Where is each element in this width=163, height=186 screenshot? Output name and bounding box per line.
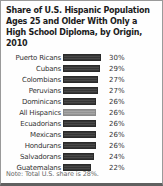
bar-track <box>63 131 105 138</box>
bar-row: Mexicans26% <box>1 129 162 140</box>
bar-row: Hondurans26% <box>1 140 162 151</box>
bar-track <box>63 109 105 116</box>
bar-track <box>63 54 105 61</box>
bar-label: Colombians <box>1 76 61 84</box>
chart-title: Share of U.S. Hispanic Population Ages 2… <box>1 1 162 51</box>
bar-row: All Hispanics26% <box>1 107 162 118</box>
bar-row: Puerto Ricans30% <box>1 52 162 63</box>
bar-row: Dominicans26% <box>1 96 162 107</box>
bar-track <box>63 87 105 94</box>
bar <box>63 65 100 72</box>
bar-label: Peruvians <box>1 87 61 95</box>
bar-value: 27% <box>109 87 125 95</box>
bar-value: 26% <box>109 131 125 139</box>
bar-track <box>63 98 105 105</box>
bar-value: 27% <box>109 76 125 84</box>
bar <box>63 87 98 94</box>
bar <box>63 98 96 105</box>
bar-label: Cubans <box>1 65 61 73</box>
bar-highlight <box>63 109 96 116</box>
bar <box>63 120 96 127</box>
bar-value: 26% <box>109 142 125 150</box>
bar <box>63 54 101 61</box>
bar-chart: Puerto Ricans30%Cubans29%Colombians27%Pe… <box>1 51 162 173</box>
bar-value: 24% <box>109 153 125 161</box>
bar <box>63 76 98 83</box>
bar-row: Cubans29% <box>1 63 162 74</box>
bar-row: Colombians27% <box>1 74 162 85</box>
bar <box>63 131 96 138</box>
bar-label: Dominicans <box>1 98 61 106</box>
chart-note: Note: Total U.S. share is 28%. <box>6 170 99 178</box>
bar <box>63 142 96 149</box>
bar-value: 26% <box>109 109 125 117</box>
bar-label: Salvadorans <box>1 153 61 161</box>
bar-value: 30% <box>109 54 125 62</box>
bar-label: Puerto Ricans <box>1 54 61 62</box>
bar-row: Salvadorans24% <box>1 151 162 162</box>
bar-value: 22% <box>109 164 125 172</box>
bar-row: Peruvians27% <box>1 85 162 96</box>
bar-row: Ecuadorians26% <box>1 118 162 129</box>
bar-track <box>63 153 105 160</box>
bar <box>63 153 94 160</box>
chart-figure: Share of U.S. Hispanic Population Ages 2… <box>0 0 163 186</box>
bar-value: 29% <box>109 65 125 73</box>
bar-label: All Hispanics <box>1 109 61 117</box>
bar-track <box>63 65 105 72</box>
bar-label: Mexicans <box>1 131 61 139</box>
bar-track <box>63 76 105 83</box>
bar-label: Hondurans <box>1 142 61 150</box>
bar-track <box>63 120 105 127</box>
bar-track <box>63 142 105 149</box>
bar-value: 26% <box>109 120 125 128</box>
bar-label: Ecuadorians <box>1 120 61 128</box>
bar-value: 26% <box>109 98 125 106</box>
